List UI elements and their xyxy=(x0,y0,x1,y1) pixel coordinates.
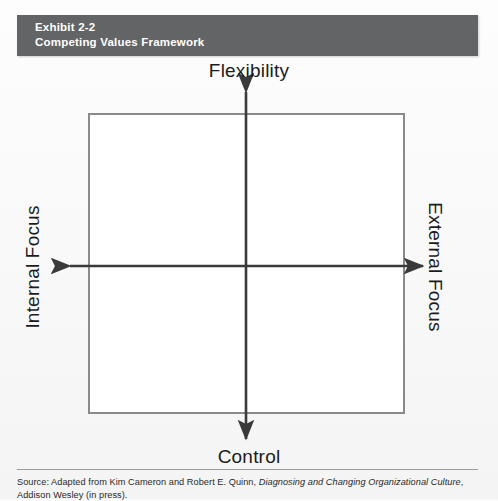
axis-label-flexibility: Flexibility xyxy=(0,60,498,82)
footer-divider xyxy=(17,469,478,470)
exhibit-title: Competing Values Framework xyxy=(35,35,478,50)
source-prefix: Source: Adapted from Kim Cameron and Rob… xyxy=(17,477,259,487)
competing-values-diagram: Flexibility Control Internal Focus Exter… xyxy=(0,56,498,460)
exhibit-number: Exhibit 2-2 xyxy=(35,20,478,35)
axis-label-control: Control xyxy=(0,446,498,468)
source-book-title: Diagnosing and Changing Organizational C… xyxy=(259,477,461,487)
source-note: Source: Adapted from Kim Cameron and Rob… xyxy=(17,476,478,501)
exhibit-footer: Source: Adapted from Kim Cameron and Rob… xyxy=(17,469,478,501)
axis-label-internal-focus: Internal Focus xyxy=(22,177,44,357)
exhibit-header-bar: Exhibit 2-2 Competing Values Framework xyxy=(17,15,478,56)
axis-label-external-focus: External Focus xyxy=(424,177,446,357)
